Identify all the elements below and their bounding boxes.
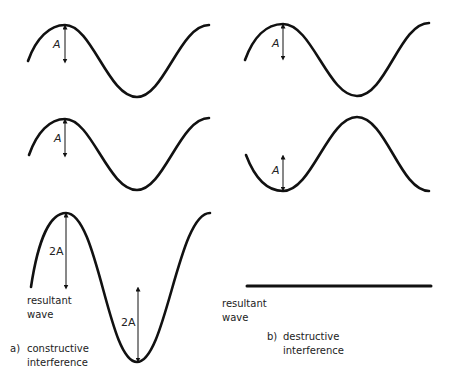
amplitude-label-a-bottom: 2A (121, 316, 136, 329)
amplitude-label-a-top: 2A (49, 245, 64, 258)
amplitude-label-b2: A (272, 164, 280, 177)
resultant-label-b-line1: resultant (222, 297, 267, 311)
panel-b-caption-line2: interference (283, 344, 344, 358)
wave-a1 (28, 25, 209, 97)
resultant-label-a-line2: wave (27, 308, 53, 322)
wave-b2 (246, 117, 429, 191)
wave-b1 (245, 23, 429, 96)
amplitude-label-b1: A (272, 37, 280, 50)
panel-a-caption-line2: interference (27, 356, 88, 370)
wave-a-resultant (31, 213, 210, 362)
resultant-label-b-line2: wave (222, 311, 248, 325)
interference-diagram (0, 0, 449, 385)
panel-b-prefix: b) (267, 330, 277, 344)
panel-a-caption-line1: constructive (27, 342, 89, 356)
resultant-label-a-line1: resultant (27, 294, 72, 308)
panel-a-prefix: a) (10, 342, 20, 356)
amplitude-label-a1: A (53, 38, 61, 51)
amplitude-label-a2: A (54, 132, 62, 145)
wave-a2 (29, 118, 209, 190)
panel-b-caption-line1: destructive (283, 330, 339, 344)
